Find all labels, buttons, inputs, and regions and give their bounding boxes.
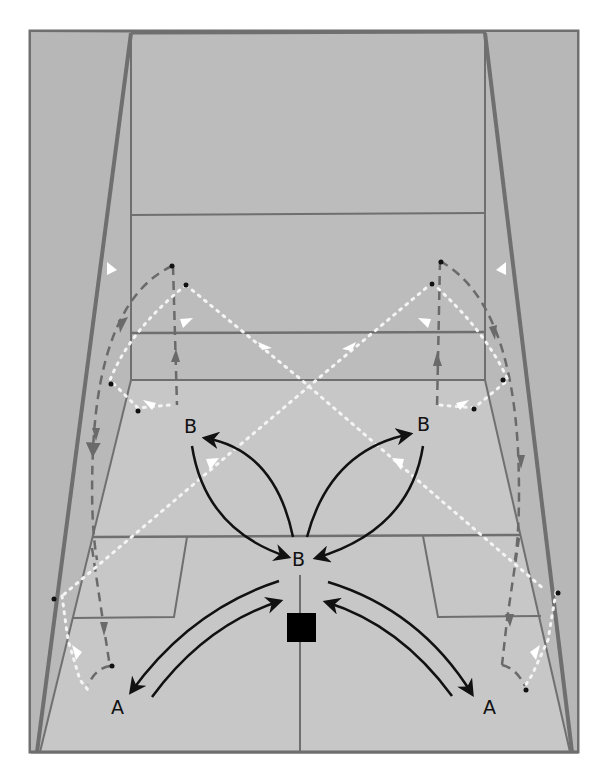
squash-court-diagram: B B B A A <box>0 0 610 782</box>
label-a-right: A <box>483 696 496 718</box>
dot-marker <box>52 597 57 602</box>
label-a-left: A <box>111 696 124 718</box>
dot-marker <box>501 378 506 383</box>
dot-marker <box>472 407 477 412</box>
dot-marker <box>430 282 435 287</box>
label-b-right: B <box>417 413 430 435</box>
dot-marker <box>184 283 189 288</box>
dot-marker <box>170 264 175 269</box>
t-position-marker <box>287 613 316 642</box>
dot-marker <box>136 409 141 414</box>
dot-marker <box>110 664 115 669</box>
dot-marker <box>439 260 444 265</box>
front-wall <box>131 33 485 380</box>
tin-line <box>131 332 485 333</box>
dot-marker <box>524 688 529 693</box>
dot-marker <box>556 591 561 596</box>
label-b-center: B <box>292 548 305 570</box>
label-b-left: B <box>184 415 197 437</box>
front-wall-top-line <box>131 32 485 33</box>
dot-marker <box>109 382 114 387</box>
